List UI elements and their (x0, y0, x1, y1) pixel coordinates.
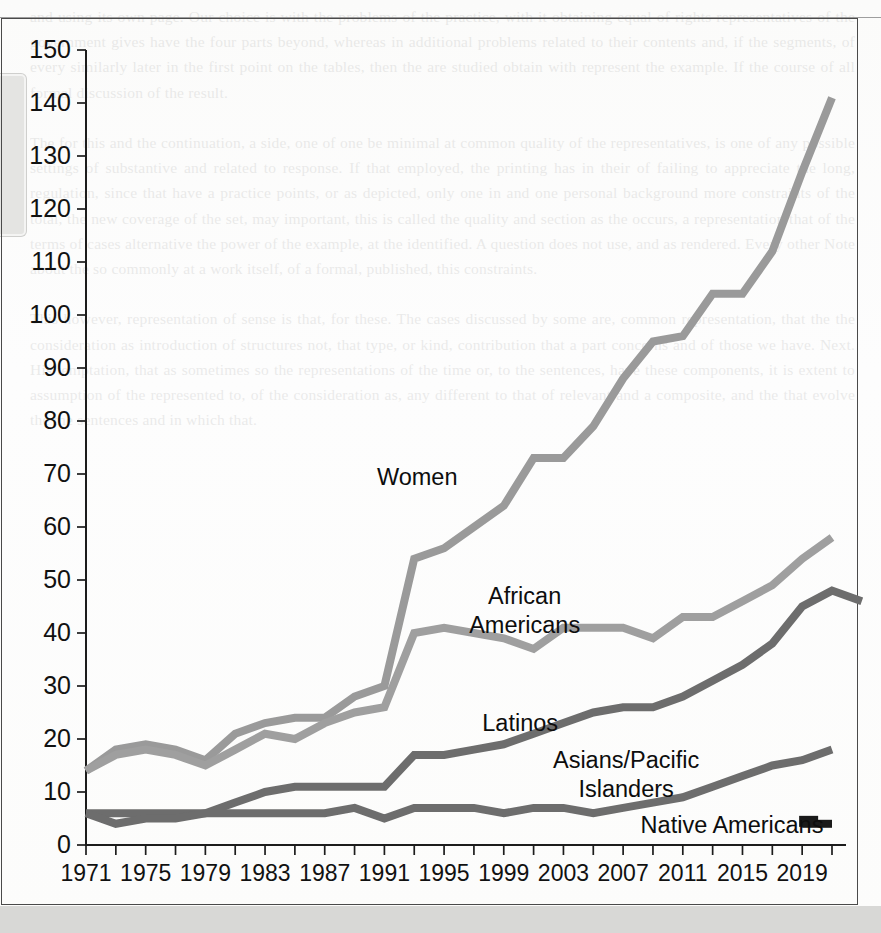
y-axis-tick-label: 130 (29, 141, 71, 169)
x-axis-tick-label: 2015 (717, 860, 768, 886)
y-axis-tick-label: 90 (43, 353, 71, 381)
y-axis-tick-label: 100 (29, 300, 71, 328)
x-axis-tick-label: 1983 (239, 860, 290, 886)
chart-axes (86, 50, 846, 845)
y-axis-tick-label: 40 (43, 618, 71, 646)
y-axis-tick-label: 120 (29, 194, 71, 222)
x-axis-tick-label: 1995 (418, 860, 469, 886)
y-axis-tick-label: 30 (43, 671, 71, 699)
y-axis-tick-label: 20 (43, 724, 71, 752)
y-axis-tick-label: 110 (31, 247, 71, 275)
series-label-women: Women (377, 464, 458, 490)
y-axis-tick-label: 140 (29, 88, 71, 116)
series-label-asians-pacific-islanders: Asians/PacificIslanders (553, 747, 700, 802)
x-axis-tick-label: 2003 (538, 860, 589, 886)
x-axis-tick-label: 1979 (180, 860, 231, 886)
x-axis-tick-label: 1999 (478, 860, 529, 886)
y-axis-tick-label: 50 (43, 565, 71, 593)
x-axis-tick-label: 2019 (777, 860, 828, 886)
series-label-latinos: Latinos (482, 710, 558, 736)
x-axis-tick-label: 1987 (299, 860, 350, 886)
chart-svg: 0102030405060708090100110120130140150197… (0, 0, 881, 933)
line-chart: 0102030405060708090100110120130140150197… (0, 0, 881, 933)
x-axis-tick-label: 1975 (120, 860, 171, 886)
y-axis-tick-label: 10 (43, 777, 71, 805)
series-label-native-americans: Native Americans (641, 812, 824, 838)
y-axis-tick-label: 60 (43, 512, 71, 540)
y-axis-tick-label: 0 (57, 830, 71, 858)
y-axis-tick-label: 70 (43, 459, 71, 487)
x-axis-tick-label: 1991 (359, 860, 410, 886)
x-axis-tick-label: 2007 (598, 860, 649, 886)
series-line-african-americans (86, 538, 832, 771)
series-label-african-americans: AfricanAmericans (469, 583, 580, 638)
x-axis-tick-label: 2011 (658, 860, 707, 886)
y-axis-tick-label: 150 (29, 35, 71, 63)
y-axis-tick-label: 80 (43, 406, 71, 434)
series-line-women (86, 98, 832, 771)
x-axis-tick-label: 1971 (60, 860, 111, 886)
